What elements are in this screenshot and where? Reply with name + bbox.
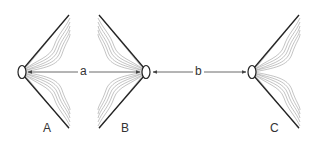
figure-label-c: C [270,122,279,134]
figure-label-a: A [43,122,51,134]
figure-c [248,15,300,129]
figure-label-b: B [121,122,129,134]
distance-label-a: a [78,65,89,77]
distance-label-b: b [193,65,204,77]
